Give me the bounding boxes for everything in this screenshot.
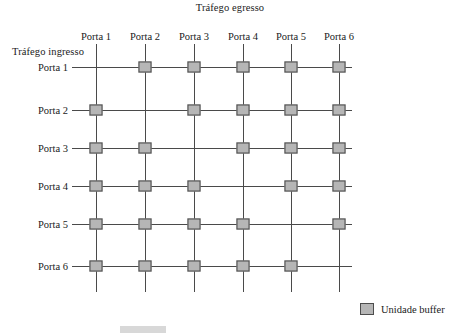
buffer-unit-r1-c6 <box>333 62 346 73</box>
buffer-unit-r5-c2 <box>139 219 152 230</box>
buffer-unit-r2-c4 <box>237 105 250 116</box>
buffer-unit-r3-c2 <box>139 143 152 154</box>
buffer-unit-r2-c3 <box>188 105 201 116</box>
egress-line-port-4 <box>243 44 244 292</box>
buffer-unit-r5-c1 <box>90 219 103 230</box>
crossbar-switch-diagram: Tráfego egresso Tráfego ingresso Porta 1… <box>0 0 460 335</box>
buffer-unit-r1-c4 <box>237 62 250 73</box>
buffer-unit-r5-c4 <box>237 219 250 230</box>
buffer-unit-r6-c5 <box>285 261 298 272</box>
buffer-unit-r6-c3 <box>188 261 201 272</box>
buffer-unit-r4-c2 <box>139 181 152 192</box>
column-header-port-5: Porta 5 <box>276 31 306 42</box>
ingress-line-port-4 <box>72 186 352 187</box>
legend-label: Unidade buffer <box>381 304 445 315</box>
ingress-traffic-title: Tráfego ingresso <box>12 46 84 57</box>
buffer-unit-r6-c4 <box>237 261 250 272</box>
column-header-port-4: Porta 4 <box>228 31 258 42</box>
column-header-port-3: Porta 3 <box>179 31 209 42</box>
buffer-unit-r3-c6 <box>333 143 346 154</box>
buffer-unit-r1-c3 <box>188 62 201 73</box>
buffer-unit-r2-c6 <box>333 105 346 116</box>
column-header-port-6: Porta 6 <box>324 31 354 42</box>
figure-caption <box>120 326 172 333</box>
row-header-port-6: Porta 6 <box>24 261 68 272</box>
row-header-port-4: Porta 4 <box>24 181 68 192</box>
egress-line-port-3 <box>194 44 195 292</box>
egress-line-port-2 <box>145 44 146 292</box>
buffer-unit-r2-c5 <box>285 105 298 116</box>
figure-caption-tag <box>120 326 166 333</box>
ingress-line-port-6 <box>72 266 352 267</box>
ingress-line-port-3 <box>72 148 352 149</box>
buffer-unit-r3-c5 <box>285 143 298 154</box>
buffer-unit-r3-c1 <box>90 143 103 154</box>
column-header-port-2: Porta 2 <box>130 31 160 42</box>
buffer-unit-r2-c1 <box>90 105 103 116</box>
buffer-unit-r5-c3 <box>188 219 201 230</box>
row-header-port-1: Porta 1 <box>24 62 68 73</box>
row-header-port-5: Porta 5 <box>24 219 68 230</box>
column-header-port-1: Porta 1 <box>81 31 111 42</box>
legend: Unidade buffer <box>360 303 445 315</box>
buffer-unit-r1-c5 <box>285 62 298 73</box>
ingress-line-port-2 <box>72 110 352 111</box>
egress-line-port-1 <box>96 44 97 292</box>
buffer-unit-r4-c5 <box>285 181 298 192</box>
egress-line-port-6 <box>339 44 340 292</box>
buffer-unit-r3-c4 <box>237 143 250 154</box>
buffer-unit-r4-c6 <box>333 181 346 192</box>
legend-buffer-swatch <box>360 303 374 315</box>
buffer-unit-r4-c3 <box>188 181 201 192</box>
egress-line-port-5 <box>291 44 292 292</box>
row-header-port-3: Porta 3 <box>24 143 68 154</box>
buffer-unit-r6-c2 <box>139 261 152 272</box>
buffer-unit-r4-c1 <box>90 181 103 192</box>
buffer-unit-r5-c6 <box>333 219 346 230</box>
buffer-unit-r6-c1 <box>90 261 103 272</box>
ingress-line-port-5 <box>72 224 352 225</box>
buffer-unit-r1-c2 <box>139 62 152 73</box>
row-header-port-2: Porta 2 <box>24 105 68 116</box>
ingress-line-port-1 <box>72 67 352 68</box>
egress-traffic-title: Tráfego egresso <box>0 2 460 13</box>
